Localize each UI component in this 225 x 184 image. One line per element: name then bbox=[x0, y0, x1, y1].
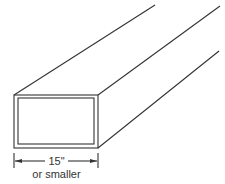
width-dimension: 15" or smaller bbox=[14, 153, 98, 180]
tube-diagram: 15" or smaller bbox=[0, 0, 225, 184]
tube-drawing bbox=[14, 5, 220, 148]
inner-opening bbox=[18, 98, 94, 144]
dimension-qualifier: or smaller bbox=[32, 168, 81, 180]
arrowhead-left-icon bbox=[15, 159, 22, 163]
outer-end-face bbox=[14, 95, 98, 148]
dimension-value: 15" bbox=[48, 155, 64, 167]
bottom-right-edge bbox=[98, 51, 219, 148]
top-right-edge bbox=[98, 6, 220, 95]
arrowhead-right-icon bbox=[90, 159, 97, 163]
top-left-edge bbox=[14, 5, 155, 95]
